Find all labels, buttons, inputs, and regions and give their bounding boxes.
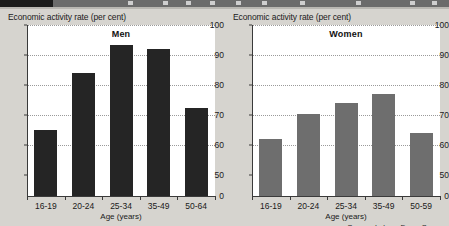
chart-panel-women: Economic activity rate (per cent) Women …: [225, 9, 449, 226]
y-tick-label-women: 60: [427, 140, 449, 150]
bar-men-35-49: [147, 49, 170, 196]
x-tick-mark: [402, 197, 403, 200]
y-tick-mark: [24, 145, 27, 146]
x-tick-mark: [327, 197, 328, 200]
y-tick-label-women: 80: [427, 80, 449, 90]
x-tick-mark: [102, 197, 103, 200]
banner-tick: [128, 1, 133, 5]
y-tick-mark: [249, 25, 252, 26]
banner-tick: [410, 1, 415, 5]
x-tick-mark: [177, 197, 178, 200]
banner-tick: [300, 1, 305, 5]
y-tick-label-men: 50: [202, 170, 224, 180]
y-tick-label-men: 70: [202, 110, 224, 120]
x-tick-mark: [215, 197, 216, 200]
x-tick-mark: [65, 197, 66, 200]
bar-women-25-34: [335, 103, 358, 196]
y-axis-title-women: Economic activity rate (per cent): [233, 12, 351, 22]
cut-off-banner-strip: [0, 0, 449, 9]
x-tick-mark: [27, 197, 28, 200]
bar-women-16-19: [259, 139, 282, 196]
bar-men-50-64: [185, 108, 208, 197]
gridline: [27, 25, 215, 26]
x-tick-label-men: 20-24: [73, 201, 95, 211]
x-axis-title-men: Age (years): [27, 212, 215, 221]
source-value: Labour Force Survey: [375, 223, 445, 226]
y-tick-mark: [24, 85, 27, 86]
banner-tick: [432, 1, 437, 5]
y-axis-title-men: Economic activity rate (per cent): [8, 12, 126, 22]
banner-tick: [236, 1, 241, 5]
bar-men-25-34: [110, 45, 133, 197]
x-axis-title-women: Age (years): [252, 212, 440, 221]
banner-dark-block: [0, 0, 53, 7]
x-tick-label-women: 20-24: [298, 201, 320, 211]
y-tick-mark: [24, 55, 27, 56]
banner-tick: [186, 1, 191, 5]
bar-women-35-49: [372, 94, 395, 196]
plot-area-women: [252, 25, 440, 196]
bar-men-20-24: [72, 73, 95, 196]
banner-tick: [163, 1, 168, 5]
source-label: Source:: [347, 223, 373, 226]
y-tick-label-women: 100: [427, 20, 449, 30]
x-axis-line-men: [27, 196, 216, 197]
y-tick-label-women: 90: [427, 50, 449, 60]
y-axis-line-men: [27, 25, 28, 196]
chart-figure: Economic activity rate (per cent) Men Ag…: [0, 0, 449, 226]
y-tick-mark: [24, 25, 27, 26]
banner-tick: [210, 1, 215, 5]
chart-title-women: Women: [252, 29, 440, 39]
y-tick-label-women: 70: [427, 110, 449, 120]
y-tick-label-men: 90: [202, 50, 224, 60]
x-tick-label-men: 35-49: [148, 201, 170, 211]
bar-men-16-19: [34, 130, 57, 196]
x-axis-line-women: [252, 196, 441, 197]
y-tick-mark: [24, 175, 27, 176]
banner-tick: [262, 1, 267, 5]
gridline: [252, 25, 440, 26]
gridline: [252, 85, 440, 86]
bar-women-20-24: [297, 114, 320, 197]
y-tick-label-women: 50: [427, 170, 449, 180]
y-tick-label-men: 60: [202, 140, 224, 150]
y-axis-line-women: [252, 25, 253, 196]
x-tick-label-men: 16-19: [35, 201, 57, 211]
y-tick-label-men: 80: [202, 80, 224, 90]
y-tick-label-men: 100: [202, 20, 224, 30]
y-tick-mark: [249, 115, 252, 116]
y-tick-mark: [249, 145, 252, 146]
x-tick-label-men: 25-34: [110, 201, 132, 211]
y-tick-mark: [249, 85, 252, 86]
y-tick-mark: [249, 55, 252, 56]
x-tick-label-women: 35-49: [373, 201, 395, 211]
y-tick-label-zero-women: 0: [427, 191, 449, 201]
chart-title-men: Men: [27, 29, 215, 39]
x-tick-mark: [140, 197, 141, 200]
y-tick-mark: [24, 115, 27, 116]
x-tick-mark: [252, 197, 253, 200]
x-tick-label-women: 16-19: [260, 201, 282, 211]
x-tick-label-men: 50-64: [185, 201, 207, 211]
y-tick-label-zero-men: 0: [202, 191, 224, 201]
chart-panel-men: Economic activity rate (per cent) Men Ag…: [0, 9, 224, 226]
source-note: Source: Labour Force Survey: [347, 223, 445, 226]
x-tick-mark: [290, 197, 291, 200]
x-tick-label-women: 25-34: [335, 201, 357, 211]
x-tick-label-women: 50-59: [410, 201, 432, 211]
x-tick-mark: [440, 197, 441, 200]
plot-area-men: [27, 25, 215, 196]
x-tick-mark: [365, 197, 366, 200]
y-tick-mark: [249, 175, 252, 176]
banner-tick: [356, 1, 361, 5]
gridline: [252, 55, 440, 56]
